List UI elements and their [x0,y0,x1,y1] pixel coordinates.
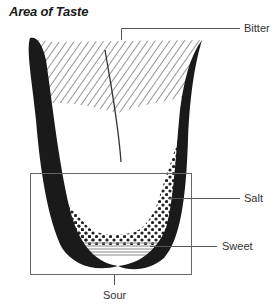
salt-label: Salt [244,192,263,204]
tongue-diagram [0,0,280,306]
sour-label: Sour [103,289,126,301]
bitter-label: Bitter [244,22,270,34]
sweet-label: Sweet [222,240,253,252]
bitter-leader [122,29,241,41]
